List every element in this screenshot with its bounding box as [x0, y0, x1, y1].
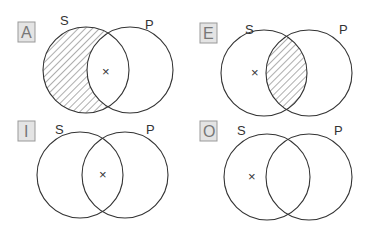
x-mark: × — [251, 65, 259, 80]
s-label: S — [55, 122, 64, 137]
x-mark: × — [102, 64, 110, 79]
label-o: O — [203, 123, 215, 140]
panel-o: O S P × — [200, 121, 352, 220]
x-mark: × — [248, 169, 256, 184]
s-label: S — [60, 13, 69, 28]
p-label: P — [334, 123, 343, 138]
panel-e: E S P × — [200, 22, 352, 116]
p-circle — [82, 132, 168, 218]
p-label: P — [339, 22, 348, 37]
s-circle — [37, 132, 123, 218]
p-circle — [266, 134, 352, 220]
s-label: S — [245, 22, 254, 37]
label-e: E — [203, 25, 214, 42]
panel-a: A S P × — [18, 13, 173, 113]
p-label: P — [146, 122, 155, 137]
s-circle — [224, 134, 310, 220]
venn-diagrams: A S P × E S P × I S P × O S P × — [0, 0, 374, 234]
s-label: S — [237, 123, 246, 138]
p-label: P — [145, 17, 154, 32]
label-i: I — [24, 123, 28, 140]
panel-i: I S P × — [18, 121, 168, 218]
label-a: A — [21, 24, 32, 41]
x-mark: × — [99, 167, 107, 182]
